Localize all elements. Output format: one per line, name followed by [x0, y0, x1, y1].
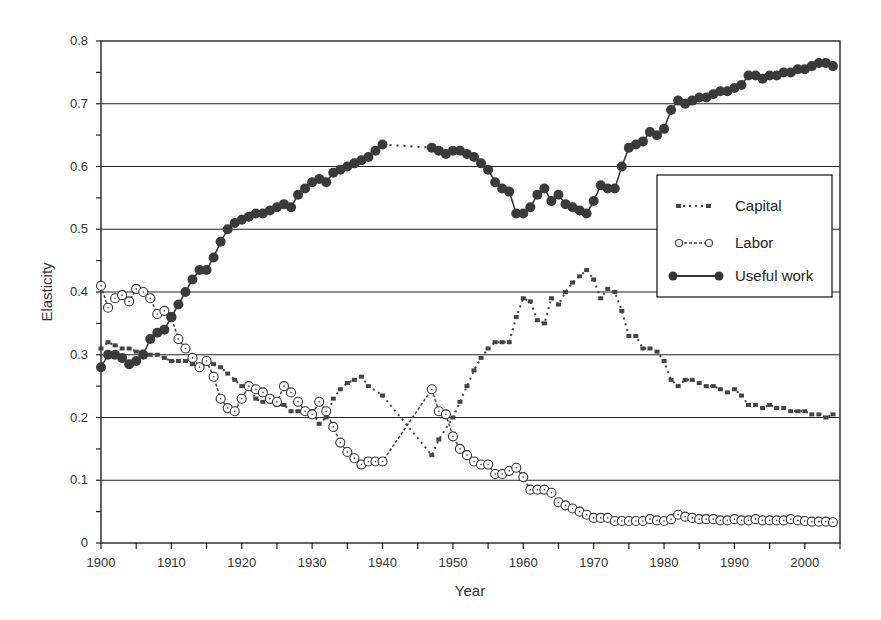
legend-label-useful-work: Useful work [735, 267, 814, 284]
x-tick-label: 1980 [650, 555, 679, 570]
y-tick-label: 0 [81, 535, 88, 550]
y-axis-label: Elasticity [38, 262, 55, 322]
y-axis-ticks: 00.10.20.30.40.50.60.70.8 [70, 33, 101, 550]
x-tick-label: 1990 [720, 555, 749, 570]
elasticity-chart: 00.10.20.30.40.50.60.70.8 19001910192019… [0, 0, 881, 620]
legend: Capital Labor Useful work [657, 175, 832, 297]
x-tick-label: 1970 [579, 555, 608, 570]
x-tick-label: 1960 [509, 555, 538, 570]
x-tick-label: 1900 [87, 555, 116, 570]
y-tick-label: 0.6 [70, 159, 88, 174]
x-tick-label: 1940 [368, 555, 397, 570]
x-axis-label: Year [455, 582, 485, 599]
legend-label-capital: Capital [735, 197, 782, 214]
y-tick-label: 0.8 [70, 33, 88, 48]
legend-label-labor: Labor [735, 234, 773, 251]
x-tick-label: 1920 [227, 555, 256, 570]
x-tick-label: 1910 [157, 555, 186, 570]
x-tick-label: 1930 [298, 555, 327, 570]
series-labor [97, 281, 838, 527]
x-tick-label: 2000 [790, 555, 819, 570]
x-tick-label: 1950 [438, 555, 467, 570]
y-tick-label: 0.1 [70, 472, 88, 487]
y-tick-label: 0.2 [70, 410, 88, 425]
y-tick-label: 0.7 [70, 96, 88, 111]
y-tick-label: 0.3 [70, 347, 88, 362]
y-tick-label: 0.4 [70, 284, 88, 299]
x-axis-ticks: 1900191019201930194019501960197019801990… [87, 543, 840, 570]
y-tick-label: 0.5 [70, 221, 88, 236]
